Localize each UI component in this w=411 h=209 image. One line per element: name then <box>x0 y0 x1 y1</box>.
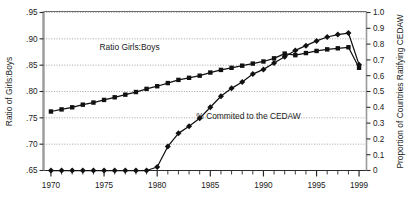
axis-titles: Ratio of Girls:BoysProportion of Countri… <box>4 14 406 168</box>
data-point-marker <box>91 100 95 104</box>
data-point-marker <box>335 32 341 38</box>
data-point-marker <box>102 98 106 102</box>
y-tick-label-right: 0.9 <box>373 24 385 33</box>
data-point-marker <box>303 43 309 49</box>
x-tick-label: 1995 <box>307 181 326 190</box>
data-point-marker <box>304 51 308 55</box>
data-point-marker <box>272 56 276 60</box>
x-axis: 1970197519801985199019951999 <box>42 171 369 190</box>
chart-container: 1970197519801985199019951999 .65.70.75.8… <box>0 0 411 209</box>
data-point-marker <box>112 95 116 99</box>
data-point-marker <box>229 66 233 70</box>
x-tick-label: 1980 <box>148 181 167 190</box>
data-point-marker <box>345 30 351 36</box>
y-tick-label-left: .75 <box>26 114 38 123</box>
y-axis-left: .65.70.75.80.85.90.95 <box>26 8 43 175</box>
data-point-marker <box>292 47 298 53</box>
y-tick-label-left: .80 <box>26 87 38 96</box>
data-point-marker <box>70 105 74 109</box>
data-point-marker <box>271 60 277 66</box>
data-point-marker <box>101 168 107 174</box>
y-tick-label-right: 0.8 <box>373 40 385 49</box>
y-tick-label-right: 0.2 <box>373 135 385 144</box>
data-point-marker <box>197 74 201 78</box>
x-tick-label: 1975 <box>95 181 114 190</box>
data-point-marker <box>336 46 340 50</box>
series-1 <box>49 45 362 114</box>
data-point-marker <box>81 102 85 106</box>
data-point-marker <box>59 168 65 174</box>
data-point-marker <box>166 81 170 85</box>
y-tick-label-right: 0.7 <box>373 56 385 65</box>
x-tick-label: 1985 <box>201 181 220 190</box>
x-tick-label: 1999 <box>350 181 369 190</box>
data-point-marker <box>154 164 160 170</box>
plot-frame <box>44 12 367 171</box>
data-point-marker <box>144 168 150 174</box>
data-point-marker <box>49 109 53 113</box>
y-tick-label-right: 0.5 <box>373 87 385 96</box>
data-point-marker <box>122 168 128 174</box>
series-label-ratio-girls-boys: Ratio Girls:Boys <box>100 42 160 52</box>
y-tick-label-right: 0 <box>373 166 378 175</box>
data-point-marker <box>176 78 180 82</box>
data-point-marker <box>251 61 255 65</box>
y-tick-label-left: .95 <box>26 8 38 17</box>
data-point-marker <box>80 168 86 174</box>
y-tick-label-left: .85 <box>26 61 38 70</box>
y-tick-label-right: 1.0 <box>373 8 385 17</box>
series-layer <box>48 30 362 173</box>
y-axis-title-left: Ratio of Girls:Boys <box>4 57 14 126</box>
data-point-marker <box>59 107 63 111</box>
data-point-marker <box>314 49 318 53</box>
data-point-marker <box>112 168 118 174</box>
y-tick-label-right: 0.6 <box>373 72 385 81</box>
y-tick-label-left: .65 <box>26 166 38 175</box>
y-axis-right: 00.10.20.30.40.50.60.70.80.91.0 <box>367 8 385 175</box>
y-tick-label-left: .70 <box>26 140 38 149</box>
data-point-marker <box>134 90 138 94</box>
data-point-marker <box>346 45 350 49</box>
series-line <box>51 47 359 111</box>
grid-lines <box>44 13 367 145</box>
data-point-marker <box>208 70 212 74</box>
x-tick-label: 1990 <box>254 181 273 190</box>
data-point-marker <box>144 87 148 91</box>
data-point-marker <box>123 92 127 96</box>
data-point-marker <box>293 53 297 57</box>
data-point-marker <box>69 168 75 174</box>
data-point-marker <box>155 84 159 88</box>
data-point-marker <box>240 63 244 67</box>
y-tick-label-right: 0.1 <box>373 151 385 160</box>
data-point-marker <box>90 168 96 174</box>
data-point-marker <box>260 66 266 72</box>
data-point-marker <box>325 47 329 51</box>
y-tick-label-right: 0.3 <box>373 119 385 128</box>
data-point-marker <box>133 168 139 174</box>
y-axis-title-right: Proportion of Countries Ratifying CEDAW <box>395 14 405 168</box>
data-point-marker <box>261 59 265 63</box>
annotation-layer: Ratio Girls:Boys% Commited to the CEDAW <box>100 42 301 121</box>
x-tick-label: 1970 <box>42 181 61 190</box>
data-point-marker <box>187 76 191 80</box>
dual-axis-line-chart: 1970197519801985199019951999 .65.70.75.8… <box>0 0 411 209</box>
y-tick-label-left: .90 <box>26 35 38 44</box>
y-tick-label-right: 0.4 <box>373 103 385 112</box>
data-point-marker <box>219 68 223 72</box>
series-label-cedaw: % Commited to the CEDAW <box>196 111 301 121</box>
data-point-marker <box>48 168 54 174</box>
